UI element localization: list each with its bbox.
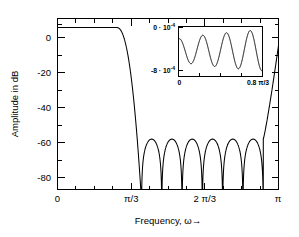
x-axis-label: Frequency, ω→ [135,215,201,226]
y-tick-label-80: -80 [37,172,51,183]
inset-y-bottom-mantissa: -8 · 10 [151,67,171,74]
inset-y-tick-labels: 0 · 10-4 -8 · 10-4 [151,22,175,74]
x-tick-label-pi: π [275,193,282,204]
y-tick-label-20: -20 [37,67,51,78]
y-axis-tick-labels: 0 -20 -40 -60 -80 [37,32,51,183]
inset-y-top-exponent: -4 [171,22,176,28]
inset-x-tick-label-0: 0 [178,79,182,86]
x-tick-label-pi3: π/3 [124,193,138,204]
x-tick-label-0: 0 [55,193,60,204]
frequency-response-chart: 0 -20 -40 -60 -80 0 π/3 2 π/3 π Amplitud… [0,0,299,237]
figure-container: 0 -20 -40 -60 -80 0 π/3 2 π/3 π Amplitud… [0,0,299,237]
y-tick-label-0: 0 [46,32,51,43]
inset-y-tick-label-bottom: -8 · 10-4 [151,65,175,74]
passband-inset: 0 · 10-4 -8 · 10-4 0 0.8 π/3 [151,22,269,86]
x-tick-label-2pi3: 2 π/3 [194,193,216,204]
inset-y-bottom-exponent: -4 [171,65,176,71]
y-tick-label-40: -40 [37,102,51,113]
y-axis-label: Amplitude in dB [9,71,20,138]
y-tick-label-60: -60 [37,137,51,148]
x-axis-tick-labels: 0 π/3 2 π/3 π [55,193,282,204]
inset-x-tick-label-max: 0.8 π/3 [247,79,269,86]
inset-x-tick-labels: 0 0.8 π/3 [178,79,270,86]
inset-y-top-mantissa: 0 · 10 [153,24,171,31]
inset-y-tick-label-top: 0 · 10-4 [153,22,175,31]
